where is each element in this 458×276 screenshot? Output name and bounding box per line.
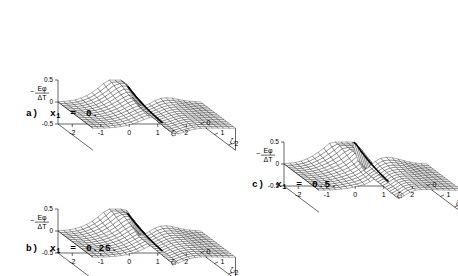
y-axis-label: ζ₂: [230, 266, 236, 274]
z-label-denominator: ΔT: [38, 94, 48, 101]
y-tick-label: 1: [447, 191, 451, 198]
svg-text:−: −: [256, 150, 260, 157]
panel-b-caption: b) x1 = 0.25.: [26, 243, 118, 254]
x-tick-label: 1: [382, 191, 386, 198]
x-tick-label: -1: [324, 191, 330, 198]
panel-a-caption: a) x1 = 0.: [26, 108, 99, 119]
panel-c-caption-value: 0.5.: [312, 179, 337, 190]
x-tick-label: 2: [410, 191, 414, 198]
surface-mesh: [58, 80, 236, 134]
panel-b-caption-prefix: b): [26, 243, 39, 254]
panel-b-caption-sub: 1: [56, 247, 61, 255]
surface-plot-b: -0.500.5−EφΔT-2-1012ζ₁012ζ₂: [22, 133, 222, 261]
panel-c-caption-prefix: c): [252, 179, 265, 190]
panel-c-caption-eq: =: [296, 179, 302, 190]
z-axis-label: −EφΔT: [30, 85, 49, 102]
x-axis-label: ζ₁: [171, 258, 176, 266]
x-tick-label: 0: [127, 258, 131, 265]
panel-a-caption-eq: =: [70, 108, 76, 119]
surface-plot-c: -0.500.5−EφΔT-2-1012ζ₁012ζ₂: [248, 66, 448, 194]
z-label-denominator: ΔT: [38, 223, 48, 230]
panel-b-caption-value: 0.25.: [86, 243, 118, 254]
y-tick-label: 0: [207, 248, 211, 255]
z-tick-label: 0.5: [44, 205, 53, 212]
x-tick-label: -2: [69, 258, 75, 265]
panel-c-caption: c) x1 = 0.5.: [252, 179, 337, 190]
y-tick-label: 0: [207, 119, 211, 126]
x-tick-label: 2: [184, 258, 188, 265]
x-tick-label: -2: [295, 191, 301, 198]
x-axis-label: ζ₁: [397, 191, 402, 199]
z-axis-label: −EφΔT: [30, 214, 49, 231]
x-tick-label: -1: [98, 258, 104, 265]
z-axis-label: −EφΔT: [256, 147, 275, 164]
z-label-denominator: ΔT: [264, 156, 274, 163]
z-tick-label: 0: [275, 160, 279, 167]
svg-text:−: −: [30, 88, 34, 95]
panel-c-caption-sub: 1: [282, 183, 287, 191]
z-label-numerator: Eφ: [263, 147, 273, 155]
svg-text:−: −: [30, 217, 34, 224]
y-tick-label: 0: [433, 181, 437, 188]
y-axis-label: ζ₂: [230, 137, 236, 145]
panel-b-caption-eq: =: [70, 243, 76, 254]
panel-a-caption-sub: 1: [56, 112, 61, 120]
z-label-numerator: Eφ: [37, 85, 47, 93]
panel-a-caption-value: 0.: [86, 108, 99, 119]
z-tick-label: 0.5: [270, 138, 279, 145]
z-tick-label: 0: [49, 98, 53, 105]
x-tick-label: 0: [353, 191, 357, 198]
x-tick-label: 1: [156, 258, 160, 265]
y-tick-label: 1: [221, 258, 225, 265]
z-tick-label: -0.5: [42, 120, 54, 127]
panel-a-caption-prefix: a): [26, 108, 39, 119]
z-label-numerator: Eφ: [37, 214, 47, 222]
z-tick-label: 0: [49, 227, 53, 234]
z-tick-label: 0.5: [44, 76, 53, 83]
